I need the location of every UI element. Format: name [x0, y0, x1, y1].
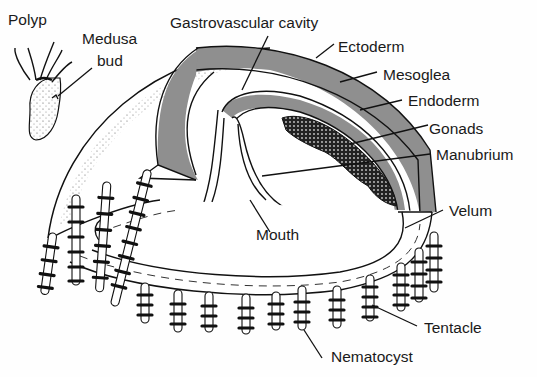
- label-ectoderm: Ectoderm: [338, 38, 404, 55]
- label-mouth: Mouth: [256, 226, 299, 243]
- label-mesoglea: Mesoglea: [383, 66, 451, 83]
- tentacle-pointer: [372, 305, 417, 326]
- label-velum: Velum: [449, 202, 492, 219]
- ectoderm-pointer: [316, 44, 334, 58]
- label-nematocyst: Nematocyst: [331, 348, 414, 365]
- medusa-diagram: Polyp Medusa bud Gastrovascular cavity E…: [0, 0, 537, 377]
- label-manubrium: Manubrium: [436, 146, 514, 163]
- label-polyp: Polyp: [8, 11, 47, 28]
- nematocyst-pointer: [304, 330, 322, 358]
- label-tentacle: Tentacle: [424, 319, 482, 336]
- label-gonads: Gonads: [429, 120, 484, 137]
- label-gastrovascular-cavity: Gastrovascular cavity: [170, 14, 318, 31]
- diagram-canvas: Polyp Medusa bud Gastrovascular cavity E…: [0, 0, 537, 377]
- label-endoderm: Endoderm: [408, 92, 480, 109]
- medusa-bud-pointer: [58, 68, 92, 96]
- label-medusa-bud-line1: Medusa: [82, 30, 138, 47]
- label-medusa-bud-line2: bud: [97, 52, 123, 69]
